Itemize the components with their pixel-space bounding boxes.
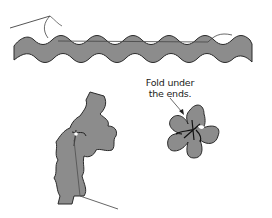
rickrack-strip bbox=[14, 36, 252, 63]
rickrack-flower-diagram: Fold under the ends. bbox=[0, 0, 272, 218]
annotation-line-1: Fold under bbox=[137, 77, 203, 88]
annotation-line-2: the ends. bbox=[137, 88, 203, 99]
fold-under-annotation: Fold under the ends. bbox=[137, 77, 203, 99]
needle-icon bbox=[10, 16, 62, 28]
gathered-rickrack bbox=[54, 92, 117, 204]
finished-flower bbox=[168, 105, 219, 158]
pointer-arrow bbox=[170, 98, 184, 115]
diagram-artwork bbox=[0, 0, 272, 218]
